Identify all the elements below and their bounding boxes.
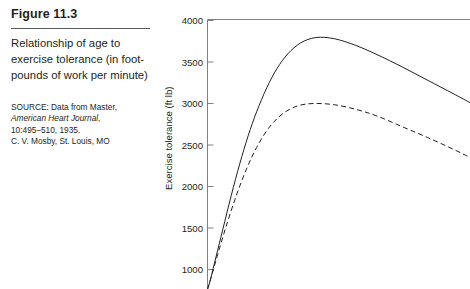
figure-description: Relationship of age to exercise toleranc… <box>11 35 153 84</box>
caption-divider <box>11 28 150 29</box>
figure-source-note: SOURCE: Data from Master, American Heart… <box>11 102 157 147</box>
source-line-prefix: SOURCE: Data from Master, <box>11 102 157 113</box>
y-axis-tick-labels: 4000 3500 3000 2500 2000 1500 1000 <box>182 15 203 275</box>
y-tick-label-1500: 1500 <box>182 223 203 234</box>
exercise-tolerance-line-chart: 4000 3500 3000 2500 2000 1500 1000 Exerc… <box>160 0 470 289</box>
y-tick-label-4000: 4000 <box>182 15 203 26</box>
source-line-volume: 10:495–510, 1935. <box>11 125 157 136</box>
y-tick-label-2000: 2000 <box>182 181 203 192</box>
y-axis-ticks <box>208 21 214 270</box>
source-line-publisher: C. V. Mosby, St. Louis, MO <box>11 136 157 147</box>
figure-caption-panel: Figure 11.3 Relationship of age to exerc… <box>0 0 160 289</box>
source-line-journal: American Heart Journal, <box>11 113 157 124</box>
y-axis-title: Exercise tolerance (ft lb) <box>163 87 174 190</box>
series-line-men <box>208 37 470 289</box>
y-tick-label-1000: 1000 <box>182 264 203 275</box>
chart-panel: 4000 3500 3000 2500 2000 1500 1000 Exerc… <box>160 0 470 289</box>
series-line-women <box>208 103 470 289</box>
y-tick-label-3000: 3000 <box>182 98 203 109</box>
figure-number-heading: Figure 11.3 <box>11 7 77 21</box>
y-tick-label-3500: 3500 <box>182 57 203 68</box>
y-tick-label-2500: 2500 <box>182 140 203 151</box>
